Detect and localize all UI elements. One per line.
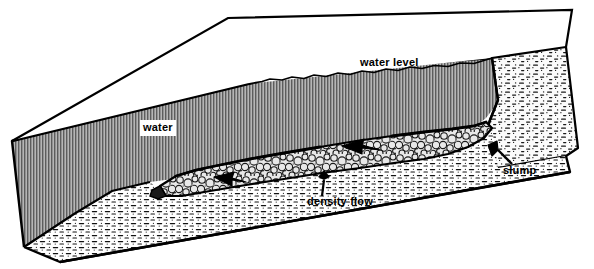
label-water: water — [140, 120, 176, 136]
block-diagram-svg — [0, 0, 594, 269]
label-density-flow: density flow — [307, 196, 373, 207]
label-water-level: water level — [360, 57, 418, 68]
density-flow-figure: water water level density flow slump — [0, 0, 594, 269]
label-slump: slump — [503, 165, 536, 176]
